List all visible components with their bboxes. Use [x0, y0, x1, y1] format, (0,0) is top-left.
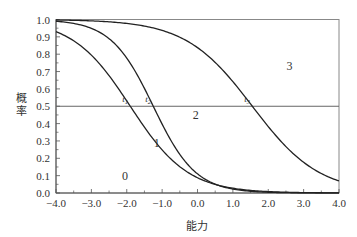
x-tick-label: 3.0 [297, 197, 311, 209]
threshold-label-t1: t1 [122, 94, 128, 105]
region-label-1: 1 [154, 136, 160, 150]
y-axis-title: 概率 [16, 92, 27, 118]
y-tick-label: 0.1 [36, 170, 50, 182]
y-tick-label: 0.9 [36, 31, 50, 43]
y-tick-label: 0.8 [36, 48, 50, 60]
x-tick-label: 2.0 [261, 197, 275, 209]
y-tick-label: 0.3 [36, 135, 50, 147]
annotations: t1t2t30123 [122, 59, 292, 182]
x-tick-label: 4.0 [332, 197, 346, 209]
y-tick-label: 0.5 [36, 100, 50, 112]
x-tick-label: 1.0 [226, 197, 240, 209]
region-label-0: 0 [122, 169, 128, 183]
y-tick-label: 1.0 [36, 14, 50, 26]
y-axis-title-char: 概 [16, 92, 27, 105]
curve-3 [56, 20, 339, 181]
y-tick-label: 0.4 [36, 118, 50, 130]
y-axis-title-char: 率 [16, 104, 27, 118]
x-tick-label: −1.0 [152, 197, 172, 209]
y-tick-label: 0.7 [36, 66, 50, 78]
threshold-label-t3: t3 [244, 94, 251, 105]
x-tick-label: −2.0 [117, 197, 137, 209]
region-label-3: 3 [286, 59, 292, 73]
x-axis-title: 能力 [186, 219, 208, 233]
x-tick-label: 0.0 [191, 197, 205, 209]
category-response-chart: −4.0−3.0−2.0−1.00.01.02.03.04.00.00.10.2… [0, 0, 357, 237]
y-tick-label: 0.6 [36, 83, 50, 95]
y-tick-label: 0.0 [36, 187, 50, 199]
y-tick-label: 0.2 [36, 152, 50, 164]
region-label-2: 2 [193, 108, 199, 122]
x-tick-label: −3.0 [81, 197, 101, 209]
